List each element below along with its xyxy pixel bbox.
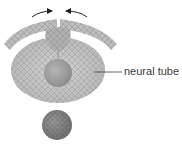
arrow-left-icon xyxy=(66,11,87,17)
notochord xyxy=(42,110,72,140)
arrow-right-icon xyxy=(32,11,52,17)
neural-tube-label: neural tube xyxy=(124,64,179,78)
lumen xyxy=(44,59,72,87)
